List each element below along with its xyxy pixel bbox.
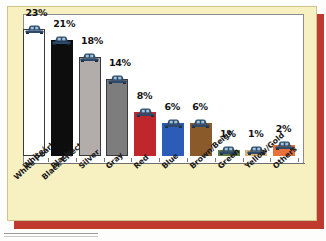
x-axis-tick <box>104 158 105 162</box>
x-axis-tick <box>270 158 271 162</box>
car-front-icon <box>25 19 44 29</box>
bar-value-label: 21% <box>53 18 75 29</box>
car-front-icon <box>108 69 127 79</box>
bar-value-label: 18% <box>81 35 103 46</box>
bar-silver <box>79 57 101 156</box>
chart-screenshot: 23%White/White Pearl21%Black/Black Effec… <box>0 0 326 241</box>
bar-value-label: 2% <box>276 123 292 134</box>
x-axis-tick <box>131 158 132 162</box>
page-rule-top <box>4 233 98 234</box>
bar-value-label: 23% <box>26 7 48 18</box>
car-front-icon <box>136 102 155 112</box>
bar-gray <box>106 79 128 156</box>
bar-value-label: 6% <box>165 101 181 112</box>
bar-red <box>134 112 156 156</box>
bar-value-label: 6% <box>192 101 208 112</box>
bar-value-label: 8% <box>137 90 153 101</box>
x-axis-tick <box>159 158 160 162</box>
bar-value-label: 1% <box>248 128 264 139</box>
x-axis-tick <box>187 158 188 162</box>
bar-value-label: 14% <box>109 57 131 68</box>
bar-black-black-effect <box>51 40 73 156</box>
bar-value-label: 1% <box>220 128 236 139</box>
car-front-icon <box>191 113 210 123</box>
x-axis-tick <box>48 158 49 162</box>
bar-white-white-pearl <box>23 29 45 156</box>
x-axis-tick <box>243 158 244 162</box>
car-front-icon <box>80 47 99 57</box>
page-rule-bottom <box>4 236 98 237</box>
car-front-icon <box>275 135 294 145</box>
car-front-icon <box>52 30 71 40</box>
x-axis-tick <box>76 158 77 162</box>
x-axis-tick <box>298 158 299 162</box>
x-axis-tick <box>215 158 216 162</box>
car-front-icon <box>164 113 183 123</box>
